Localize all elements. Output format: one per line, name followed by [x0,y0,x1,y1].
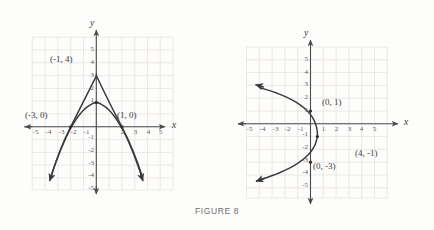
right-y-tick-4: 4 [300,68,308,76]
right-x-axis-label: x [404,117,408,127]
graph-panels [0,0,434,230]
right-label-vertex: (4, -1) [355,148,378,158]
figure-8: y x -5 -4 -3 -2 -1 2 3 4 5 5 4 3 2 1 -1 … [0,0,434,230]
left-y-tick--4: -4 [86,171,94,179]
figure-caption: FIGURE 8 [0,206,434,216]
left-label-vertex: (-1, 4) [50,54,73,64]
left-y-tick-5: 5 [86,45,94,53]
left-x-tick--4: -4 [44,128,53,136]
right-parabola-path [261,88,317,179]
left-y-tick--5: -5 [86,184,94,192]
right-x-tick--5: -5 [245,125,254,133]
left-y-tick-4: 4 [86,58,94,66]
right-x-tick-2: 2 [332,125,341,133]
right-x-tick--4: -4 [258,125,267,133]
left-y-tick--3: -3 [86,159,94,167]
left-y-tick--1: -1 [86,133,94,141]
left-x-tick-5: 5 [156,128,165,136]
right-label-y-intercept-1: (0, 1) [322,97,342,107]
right-x-tick-4: 4 [357,125,366,133]
left-y-tick-2: 2 [86,84,94,92]
right-y-tick--5: -5 [300,181,308,189]
left-label-x-intercept-1: (1, 0) [117,110,137,120]
right-y-tick-3: 3 [300,80,308,88]
right-y-tick--4: -4 [300,168,308,176]
left-x-tick--2: -2 [69,128,78,136]
right-y-tick--2: -2 [300,143,308,151]
left-y-tick-1: 1 [86,96,94,104]
right-point-vertex [316,135,319,138]
right-y-tick--3: -3 [300,156,308,164]
left-y-tick-3: 3 [86,71,94,79]
right-point-y-intercept-neg3 [309,161,312,164]
left-x-tick--3: -3 [57,128,66,136]
right-x-tick--2: -2 [283,125,292,133]
right-grid [247,47,388,198]
right-x-tick--3: -3 [271,125,280,133]
right-y-tick-5: 5 [300,55,308,63]
left-x-axis-label: x [172,120,176,130]
right-y-tick-1: 1 [300,106,308,114]
right-x-tick-5: 5 [370,125,379,133]
left-x-tick-4: 4 [144,128,153,136]
left-x-tick--5: -5 [31,128,40,136]
left-y-axis-label: y [90,18,94,28]
left-x-tick-2: 2 [118,128,127,136]
right-y-axis-label: y [304,28,308,38]
right-x-tick-1: 1 [319,125,328,133]
left-label-x-intercept-neg3: (-3, 0) [25,110,48,120]
left-point-vertex [95,101,98,104]
right-point-y-intercept-1 [309,109,312,112]
right-label-y-intercept-neg3: (0, -3) [313,161,336,171]
left-x-tick-3: 3 [131,128,140,136]
right-y-tick-2: 2 [300,93,308,101]
left-y-tick--2: -2 [86,146,94,154]
right-x-tick-3: 3 [345,125,354,133]
right-y-tick--1: -1 [300,130,308,138]
